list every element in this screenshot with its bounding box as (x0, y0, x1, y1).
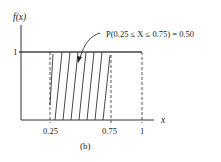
y-axis-label: f(x) (13, 12, 26, 23)
y-tick-1: 1 (13, 47, 18, 57)
x-tick-025: 0.25 (43, 126, 58, 136)
figure-caption: (b) (80, 141, 91, 151)
x-axis-label: x (160, 115, 166, 125)
uniform-pdf-diagram: f(x) 1 P(0.25 ≤ X ≤ 0.75) = 0.50 x 0.25 … (0, 0, 221, 162)
arrowhead-icon (77, 56, 82, 63)
annotation-arrow (80, 33, 100, 58)
annotation-label: P(0.25 ≤ X ≤ 0.75) = 0.50 (106, 29, 194, 39)
shaded-region (50, 52, 110, 120)
x-tick-075: 0.75 (102, 126, 117, 136)
x-tick-1: 1 (140, 126, 144, 136)
